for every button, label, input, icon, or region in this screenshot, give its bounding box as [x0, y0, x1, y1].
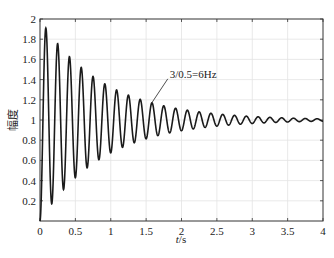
y-tick-label: 1.6 [22, 53, 36, 65]
x-tick-label: 1.5 [139, 225, 153, 237]
y-tick-label: 2 [31, 13, 37, 25]
y-tick-label: 1.2 [22, 94, 36, 106]
y-tick-label: 0.6 [22, 154, 36, 166]
y-tick-label: 1.4 [22, 74, 36, 86]
x-tick-label: 0.5 [69, 225, 83, 237]
y-tick-label: 0.8 [22, 134, 36, 146]
annotation-label: 3/0.5=6Hz [170, 68, 217, 80]
x-tick-label: 3.5 [281, 225, 295, 237]
x-tick-label: 2.5 [210, 225, 224, 237]
x-tick-label: 3 [250, 225, 256, 237]
y-tick-label: 1.8 [22, 33, 36, 45]
y-tick-label: 1 [31, 114, 37, 126]
y-tick-label: 0.4 [22, 175, 36, 187]
y-tick-labels: 0.20.40.60.811.21.41.61.82 [22, 13, 36, 207]
x-tick-label: 4 [320, 225, 326, 237]
grid-lines [40, 19, 323, 221]
y-axis-label: 幅度 [6, 109, 19, 131]
y-tick-label: 0.2 [22, 195, 36, 207]
annotation-pointer [152, 79, 168, 103]
damped-oscillation-chart: 00.511.522.533.54 0.20.40.60.811.21.41.6… [0, 0, 334, 258]
x-axis-label: t/s [176, 233, 186, 245]
x-tick-label: 0 [37, 225, 43, 237]
x-tick-label: 1 [108, 225, 114, 237]
